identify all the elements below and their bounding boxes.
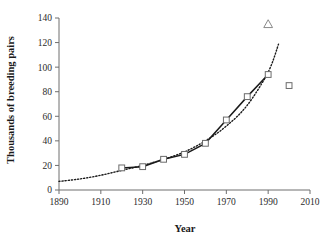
y-tick-label: 80	[43, 87, 53, 97]
x-tick-label: 1930	[133, 197, 152, 207]
data-point-square	[244, 94, 250, 100]
series-dotted-trend	[59, 44, 279, 182]
data-point-square	[119, 165, 125, 171]
chart-canvas: 0204060801001201401890191019301950197019…	[0, 0, 332, 236]
axes-group	[59, 18, 310, 190]
data-point-square	[161, 156, 167, 162]
y-tick-label: 20	[43, 161, 53, 171]
y-tick-label: 0	[47, 185, 52, 195]
data-point-square	[203, 140, 209, 146]
tick-marks-group	[55, 18, 310, 194]
x-tick-label: 1990	[259, 197, 278, 207]
data-point-square	[265, 72, 271, 78]
x-tick-label: 1910	[91, 197, 110, 207]
x-tick-label: 2010	[301, 197, 320, 207]
trend-line-path	[59, 44, 279, 182]
y-tick-label: 140	[38, 13, 53, 23]
y-axis-title: Thousands of breeding pairs	[5, 36, 16, 164]
y-tick-label: 120	[38, 38, 53, 48]
data-point-square	[182, 151, 188, 157]
census-line-path	[122, 75, 268, 168]
data-point-triangle	[264, 20, 273, 28]
x-tick-label: 1970	[217, 197, 236, 207]
data-point-square	[286, 83, 292, 89]
data-markers-group	[119, 20, 292, 171]
data-point-square	[140, 164, 146, 170]
x-tick-label: 1950	[175, 197, 194, 207]
tick-labels-group: 0204060801001201401890191019301950197019…	[38, 13, 320, 207]
x-tick-label: 1890	[50, 197, 69, 207]
series-solid-census	[122, 75, 268, 168]
y-tick-label: 40	[43, 136, 53, 146]
y-tick-label: 100	[38, 63, 53, 73]
x-axis-title: Year	[175, 223, 196, 234]
data-point-square	[223, 117, 229, 123]
chart-figure: 0204060801001201401890191019301950197019…	[0, 0, 332, 236]
y-tick-label: 60	[43, 112, 53, 122]
